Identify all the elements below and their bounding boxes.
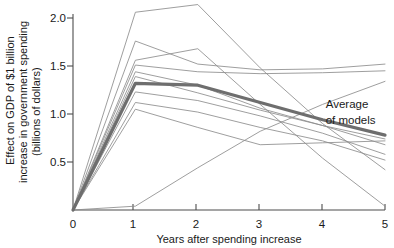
average-of-models-label-line1: Average xyxy=(326,98,369,110)
y-axis-title-line3: (billions of dollars) xyxy=(30,67,42,156)
x-tick-label-0: 0 xyxy=(70,218,76,230)
x-tick-label-4: 4 xyxy=(319,218,326,230)
x-tick-label-3: 3 xyxy=(256,218,262,230)
y-axis-title-line1: Effect on GDP of $1 billion xyxy=(4,36,16,165)
x-tick-label-5: 5 xyxy=(382,218,388,230)
y-tick-label-0-5: 0.5 xyxy=(50,156,66,168)
average-of-models-annotation: Average of models xyxy=(326,98,376,126)
y-tick-label-1-5: 1.5 xyxy=(50,60,66,72)
x-axis-title: Years after spending increase xyxy=(156,233,301,245)
y-tick-label-2-0: 2.0 xyxy=(50,12,66,24)
x-tick-label-2: 2 xyxy=(193,218,199,230)
average-of-models-label-line2: of models xyxy=(326,114,376,126)
chart-figure: Effect on GDP of $1 billion increase in … xyxy=(0,0,394,248)
line-chart: Effect on GDP of $1 billion increase in … xyxy=(0,0,394,248)
series-model-4 xyxy=(73,65,385,210)
y-tick-label-1-0: 1.0 xyxy=(50,108,66,120)
x-tick-label-1: 1 xyxy=(130,218,136,230)
y-axis-title-line2: increase in government spending xyxy=(17,21,29,183)
y-axis-title: Effect on GDP of $1 billion increase in … xyxy=(4,21,42,183)
